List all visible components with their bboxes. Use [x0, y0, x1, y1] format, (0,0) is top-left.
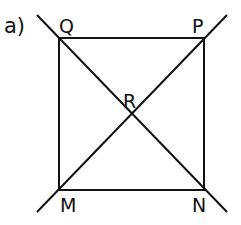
square-diagonals-diagram: g a) Q P R M N — [0, 0, 241, 225]
intersection-label-r: R — [123, 90, 136, 112]
vertex-label-p: P — [192, 15, 203, 37]
vertex-label-q: Q — [59, 15, 74, 37]
vertex-label-n: N — [192, 194, 206, 216]
vertex-label-m: M — [60, 194, 76, 216]
part-label: a) — [4, 14, 25, 38]
